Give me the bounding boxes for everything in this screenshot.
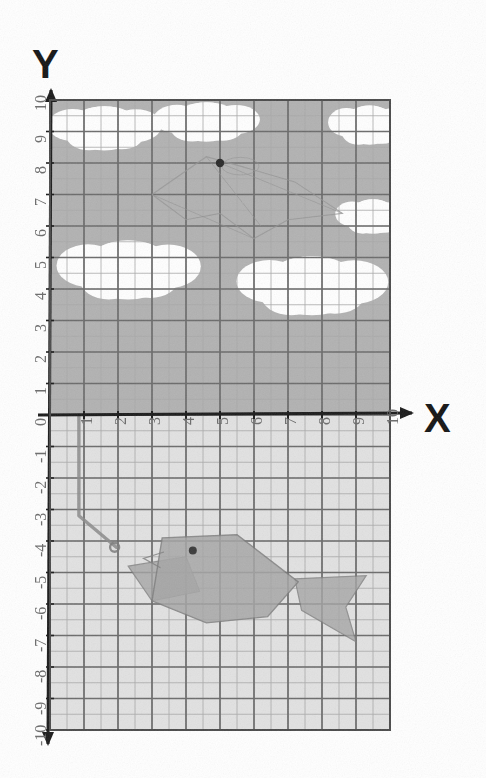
- paper-grain: [0, 0, 486, 778]
- y-tick-label-neg6: -6: [33, 607, 49, 620]
- coordinate-plane: [0, 0, 486, 778]
- y-tick-label-3: 3: [33, 324, 49, 332]
- y-tick-label-neg4: -4: [33, 544, 49, 557]
- y-tick-label-neg3: -3: [33, 512, 49, 525]
- origin-label: 0: [33, 418, 49, 426]
- y-tick-label-neg9: -9: [33, 701, 49, 714]
- x-tick-label-5: 5: [215, 417, 231, 425]
- x-tick-label-7: 7: [283, 417, 299, 425]
- y-tick-label-4: 4: [33, 292, 49, 300]
- y-tick-label-neg10: -10: [33, 725, 49, 746]
- y-tick-label-6: 6: [33, 229, 49, 237]
- x-tick-label-3: 3: [147, 417, 163, 425]
- x-tick-label-4: 4: [181, 417, 197, 425]
- y-tick-label-10: 10: [33, 95, 49, 111]
- x-tick-label-10: 10: [385, 409, 401, 425]
- y-tick-label-neg2: -2: [33, 481, 49, 494]
- coordinate-grid-worksheet: Y X: [0, 0, 486, 778]
- y-tick-label-neg1: -1: [33, 449, 49, 462]
- y-tick-label-neg5: -5: [33, 575, 49, 588]
- x-tick-label-2: 2: [113, 417, 129, 425]
- y-tick-label-7: 7: [33, 198, 49, 206]
- x-tick-label-6: 6: [249, 417, 265, 425]
- y-tick-label-5: 5: [33, 261, 49, 269]
- y-tick-label-8: 8: [33, 166, 49, 174]
- y-tick-label-2: 2: [33, 355, 49, 363]
- y-tick-label-1: 1: [33, 387, 49, 395]
- x-tick-label-8: 8: [317, 417, 333, 425]
- y-tick-label-neg7: -7: [33, 638, 49, 651]
- y-tick-label-neg8: -8: [33, 670, 49, 683]
- x-tick-label-9: 9: [351, 417, 367, 425]
- x-tick-label-1: 1: [79, 417, 95, 425]
- y-tick-label-9: 9: [33, 135, 49, 143]
